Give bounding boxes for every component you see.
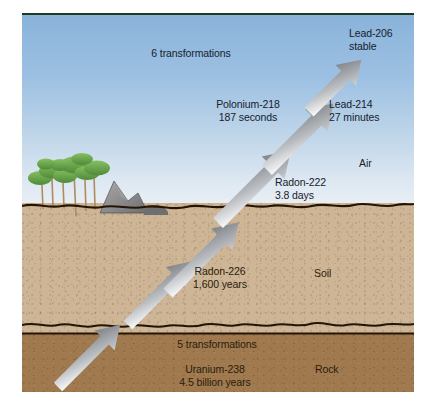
ground-surface-line [22, 204, 414, 208]
lead-214-name: Lead-214 [329, 98, 373, 110]
radon-decay-diagram: 6 transformations Lead-206 stable Poloni… [0, 0, 429, 418]
label-lead-214: Lead-214 27 minutes [329, 98, 414, 123]
lead-214-halflife: 27 minutes [329, 111, 414, 124]
label-layer-air: Air [359, 157, 399, 170]
soil-rock-wavy-line [22, 323, 414, 327]
label-radon-226: Radon-226 1,600 years [170, 265, 270, 290]
diagram-vector-overlay [22, 15, 414, 392]
label-layer-soil: Soil [314, 267, 358, 280]
radon-226-name: Radon-226 [194, 265, 245, 277]
polonium-218-halflife: 187 seconds [192, 111, 304, 124]
radon-222-halflife: 3.8 days [275, 189, 370, 202]
label-6-transformations: 6 transformations [126, 47, 256, 60]
uranium-238-name: Uranium-238 [185, 363, 245, 375]
lead-206-halflife: stable [349, 40, 414, 53]
label-5-transformations: 5 transformations [153, 338, 281, 351]
boulder-icon [100, 181, 168, 215]
uranium-238-halflife: 4.5 billion years [149, 376, 281, 389]
diagram-scene: 6 transformations Lead-206 stable Poloni… [22, 13, 414, 392]
radon-226-halflife: 1,600 years [170, 278, 270, 291]
tree-foliage [28, 153, 110, 185]
label-polonium-218: Polonium-218 187 seconds [192, 98, 304, 123]
lead-206-name: Lead-206 [349, 27, 393, 39]
label-lead-206: Lead-206 stable [349, 27, 414, 52]
polonium-218-name: Polonium-218 [216, 98, 280, 110]
radon-222-name: Radon-222 [275, 176, 326, 188]
label-layer-rock: Rock [315, 363, 361, 376]
label-uranium-238: Uranium-238 4.5 billion years [149, 363, 281, 388]
label-radon-222: Radon-222 3.8 days [275, 176, 370, 201]
